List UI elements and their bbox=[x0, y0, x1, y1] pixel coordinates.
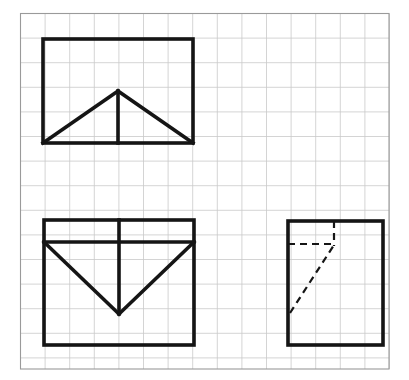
drawing-canvas bbox=[0, 0, 409, 380]
drawing-page bbox=[0, 0, 409, 380]
page-background bbox=[0, 0, 409, 380]
